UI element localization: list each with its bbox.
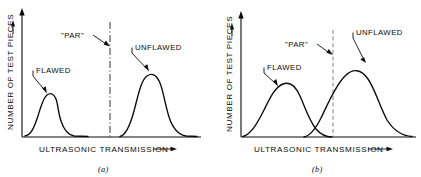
x-axis-title-b: ULTRASONIC TRANSMISSION bbox=[254, 145, 393, 154]
chart-panel-b: "PAR" FLAWED UNFLAWED NUMBER OF TEST PIE… bbox=[211, 0, 421, 177]
unflawed-label-b: UNFLAWED bbox=[356, 28, 403, 37]
flawed-label-a: FLAWED bbox=[36, 66, 71, 75]
unflawed-curve-a bbox=[120, 74, 197, 136]
svg-text:ULTRASONIC TRANSMISSION: ULTRASONIC TRANSMISSION bbox=[39, 145, 169, 154]
flawed-callout-a: FLAWED bbox=[33, 66, 71, 93]
flawed-curve-b bbox=[243, 83, 332, 137]
x-axis-title-a: ULTRASONIC TRANSMISSION bbox=[39, 145, 177, 154]
unflawed-callout-b: UNFLAWED bbox=[353, 28, 403, 63]
panel-caption-a: (a) bbox=[98, 165, 109, 174]
par-callout-a: "PAR" bbox=[61, 31, 110, 47]
panel-caption-b: (b) bbox=[312, 165, 323, 174]
svg-text:ULTRASONIC TRANSMISSION: ULTRASONIC TRANSMISSION bbox=[254, 145, 384, 154]
flawed-curve-a bbox=[25, 94, 88, 137]
unflawed-curve-b bbox=[304, 71, 412, 137]
par-callout-b: "PAR" bbox=[285, 40, 333, 55]
par-label-a: "PAR" bbox=[61, 31, 84, 40]
svg-text:NUMBER OF TEST PIECES: NUMBER OF TEST PIECES bbox=[225, 16, 234, 132]
par-label-b: "PAR" bbox=[285, 40, 308, 49]
svg-text:NUMBER OF TEST PIECES: NUMBER OF TEST PIECES bbox=[6, 14, 15, 130]
y-axis-title-a: NUMBER OF TEST PIECES bbox=[6, 14, 15, 130]
unflawed-label-a: UNFLAWED bbox=[135, 43, 182, 52]
flawed-callout-b: FLAWED bbox=[264, 63, 302, 86]
flawed-label-b: FLAWED bbox=[267, 63, 302, 72]
y-axis-b bbox=[238, 11, 243, 137]
figure-container: "PAR" FLAWED UNFLAWED NUMBER OF TEST PIE… bbox=[0, 0, 421, 177]
y-axis-title-b: NUMBER OF TEST PIECES bbox=[225, 16, 234, 132]
chart-panel-a: "PAR" FLAWED UNFLAWED NUMBER OF TEST PIE… bbox=[0, 0, 211, 177]
y-axis-a bbox=[19, 8, 24, 137]
unflawed-callout-a: UNFLAWED bbox=[132, 43, 182, 72]
